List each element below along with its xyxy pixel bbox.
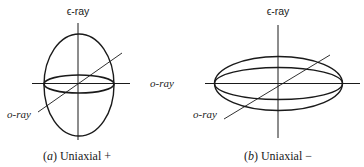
panel-a-o-ray-diagonal-text: o-ray bbox=[7, 108, 31, 120]
panel-a-o-ray-side-label: o-ray bbox=[150, 78, 174, 89]
panel-b-caption-letter: b bbox=[248, 149, 254, 163]
panel-b-o-ray-diagonal-text: o-ray bbox=[193, 108, 217, 120]
panel-a-caption-text: Uniaxial + bbox=[60, 149, 111, 163]
panel-b-caption: (b) Uniaxial − bbox=[244, 150, 312, 162]
panel-b-caption-text: Uniaxial − bbox=[261, 149, 312, 163]
panel-a-caption: (a) Uniaxial + bbox=[43, 150, 111, 162]
panel-b-o-ray-diagonal-label: o-ray bbox=[193, 109, 217, 120]
panel-a-outer-ellipsoid bbox=[44, 34, 114, 136]
panel-a-o-ray-side-text: o-ray bbox=[150, 77, 174, 89]
index-ellipsoid-diagram bbox=[0, 0, 364, 167]
panel-a-drawing bbox=[32, 23, 130, 140]
panel-b-e-ray-label: ϵ-ray bbox=[267, 6, 290, 17]
panel-a-caption-letter: a bbox=[47, 149, 53, 163]
panel-a-diagonal-axis bbox=[38, 53, 122, 112]
panel-b-drawing bbox=[205, 25, 360, 138]
panel-a-o-ray-diagonal-label: o-ray bbox=[7, 109, 31, 120]
panel-b-diagonal-axis bbox=[224, 55, 330, 119]
panel-a-e-ray-label: ϵ-ray bbox=[67, 6, 90, 17]
